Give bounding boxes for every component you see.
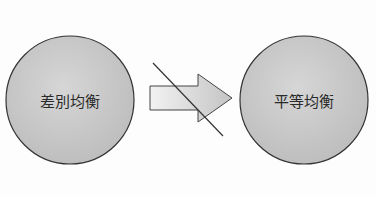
left-circle-label: 差別均衡: [6, 90, 134, 111]
right-circle-label: 平等均衡: [240, 90, 368, 111]
diagram-canvas: 差別均衡 平等均衡: [0, 0, 376, 197]
arrow-icon: [150, 74, 232, 122]
